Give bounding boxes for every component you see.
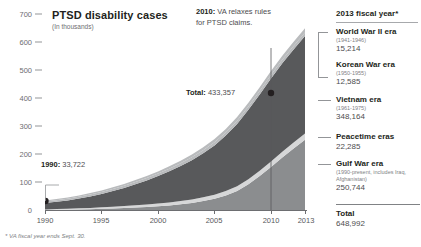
y-axis: 700 600 500 400 300 200 100 0 <box>0 0 45 215</box>
annotation-total-value: 433,357 <box>206 88 235 97</box>
legend-item-peacetime-eras: Peacetime eras 22,285 <box>336 132 421 152</box>
legend-item-name: Peacetime eras <box>336 132 421 142</box>
y-tick-mark-100 <box>35 182 42 183</box>
annotation-2010-note: 2010: VA relaxes rules for PTSD claims. <box>196 7 272 28</box>
legend-item-name: World War II era <box>336 27 421 37</box>
y-tick-mark-700 <box>35 14 42 15</box>
legend-title-rule <box>336 22 418 23</box>
footnote: * VA fiscal year ends Sept. 30. <box>5 233 86 239</box>
legend-total-label: Total <box>336 209 421 219</box>
legend-item-value: 12,585 <box>336 77 421 87</box>
y-tick-mark-400 <box>35 98 42 99</box>
y-tick-mark-500 <box>35 70 42 71</box>
annotation-total-label: Total: <box>186 88 206 97</box>
legend-connector-vietnam <box>318 100 331 101</box>
x-tick-label-2010: 2010 <box>263 216 280 225</box>
y-tick-label-300: 300 <box>19 122 32 131</box>
x-tick-mark-2005 <box>214 210 215 214</box>
y-tick-mark-300 <box>35 126 42 127</box>
x-tick-mark-2000 <box>158 210 159 214</box>
legend-item-years: (1961-1975) <box>336 105 421 112</box>
x-tick-mark-2010 <box>271 210 272 214</box>
legend-item-name: Vietnam era <box>336 95 421 105</box>
y-tick-label-200: 200 <box>19 150 32 159</box>
legend-item-gulf-war-era: Gulf War era (1990-present, includes Ira… <box>336 159 421 193</box>
y-tick-label-0: 0 <box>28 206 32 215</box>
legend-item-value: 250,744 <box>336 183 421 193</box>
x-tick-label-2013: 2013 <box>298 216 315 225</box>
y-tick-label-100: 100 <box>19 178 32 187</box>
plot-area <box>45 14 305 210</box>
legend-item-world-war-ii-era: World War II era (1941-1946) 15,214 <box>336 27 421 54</box>
y-tick-label-400: 400 <box>19 94 32 103</box>
legend-item-name: Korean War era <box>336 60 421 70</box>
annotation-2010-year: 2010: <box>196 7 215 16</box>
y-tick-label-600: 600 <box>19 38 32 47</box>
legend-total-value: 648,992 <box>336 219 421 229</box>
legend-item-value: 348,164 <box>336 112 421 122</box>
ptsd-disability-cases-chart: PTSD disability cases (In thousands) 700… <box>0 0 421 247</box>
x-tick-label-1995: 1995 <box>93 216 110 225</box>
y-tick-label-500: 500 <box>19 66 32 75</box>
x-tick-mark-1990 <box>45 210 46 214</box>
x-tick-label-2005: 2005 <box>206 216 223 225</box>
legend: 2013 fiscal year* World War II era (1941… <box>318 0 421 247</box>
total-marker-dot-2010 <box>268 90 274 96</box>
x-axis-line <box>45 210 307 211</box>
legend-item-years: (1950-1955) <box>336 70 421 77</box>
legend-total: Total 648,992 <box>336 209 421 229</box>
annotation-1990-year: 1990: <box>41 160 60 169</box>
legend-item-years: (1941-1946) <box>336 37 421 44</box>
annotation-1990-value: 33,722 <box>60 160 85 169</box>
legend-item-korean-war-era: Korean War era (1950-1955) 12,585 <box>336 60 421 87</box>
annotation-total-2010: Total: 433,357 <box>186 88 235 97</box>
x-tick-label-1990: 1990 <box>37 216 54 225</box>
y-tick-mark-600 <box>35 42 42 43</box>
legend-item-value: 22,285 <box>336 142 421 152</box>
x-tick-mark-2013 <box>305 210 306 214</box>
y-tick-label-700: 700 <box>19 10 32 19</box>
stacked-area-svg <box>45 14 305 210</box>
legend-connector-peacetime <box>318 137 331 138</box>
legend-title: 2013 fiscal year* <box>336 9 398 18</box>
legend-total-rule <box>336 204 420 205</box>
legend-item-value: 15,214 <box>336 44 421 54</box>
legend-item-vietnam-era: Vietnam era (1961-1975) 348,164 <box>336 95 421 122</box>
legend-item-name: Gulf War era <box>336 159 421 169</box>
annotation-1990: 1990: 33,722 <box>41 160 85 169</box>
legend-item-years: (1990-present, includes Iraq, Afghanista… <box>336 169 421 183</box>
legend-bracket-wwii-korean <box>318 32 328 78</box>
x-tick-label-2000: 2000 <box>150 216 167 225</box>
x-tick-mark-1995 <box>101 210 102 214</box>
y-tick-mark-200 <box>35 154 42 155</box>
legend-connector-gulf-war <box>318 164 331 165</box>
